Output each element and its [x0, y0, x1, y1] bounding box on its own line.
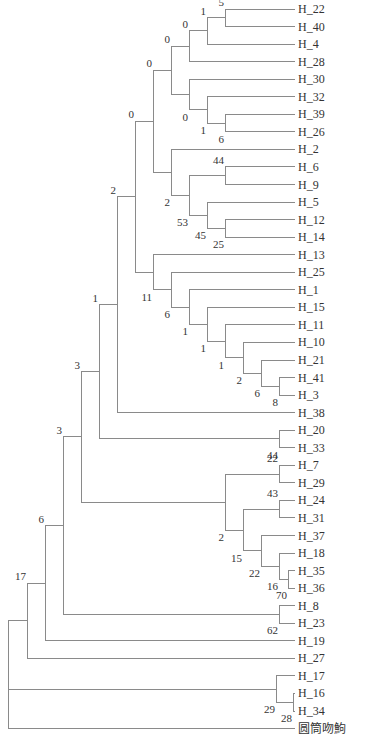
taxon-labels: H_22H_40H_4H_28H_30H_32H_39H_26H_2H_6H_9…: [298, 2, 346, 736]
bootstrap-value: 1: [93, 292, 99, 304]
bootstrap-value: 11: [141, 291, 152, 303]
bootstrap-value: 2: [219, 531, 225, 543]
bootstrap-value: 0: [183, 111, 189, 123]
taxon-label: H_14: [298, 230, 325, 244]
bootstrap-value: 17: [15, 570, 27, 582]
bootstrap-value: 2: [237, 374, 243, 386]
taxon-label: H_38: [298, 406, 325, 420]
bootstrap-value: 6: [39, 513, 45, 525]
taxon-label: H_39: [298, 107, 325, 121]
taxon-label: H_34: [298, 704, 325, 718]
taxon-label: H_32: [298, 90, 325, 104]
taxon-label: H_31: [298, 511, 325, 525]
taxon-label: H_8: [298, 599, 319, 613]
taxon-label: H_33: [298, 441, 325, 455]
taxon-label: H_27: [298, 651, 325, 665]
taxon-label: H_20: [298, 423, 325, 437]
taxon-label: H_19: [298, 634, 325, 648]
taxon-label: H_37: [298, 529, 325, 543]
taxon-label: H_25: [298, 265, 325, 279]
bootstrap-value: 5: [219, 0, 225, 8]
taxon-label: H_28: [298, 55, 325, 69]
phylogenetic-tree: 1763312000015016253444525116111268442221…: [0, 0, 365, 743]
bootstrap-value: 70: [276, 589, 288, 601]
taxon-label: H_30: [298, 72, 325, 86]
bootstrap-value: 0: [129, 108, 135, 120]
taxon-label: H_15: [298, 300, 325, 314]
bootstrap-value: 1: [183, 325, 189, 337]
taxon-label: H_7: [298, 458, 319, 472]
taxon-label: H_10: [298, 335, 325, 349]
bootstrap-value: 53: [177, 216, 189, 228]
bootstrap-value: 44: [213, 154, 225, 166]
taxon-label: H_41: [298, 371, 325, 385]
bootstrap-value: 2: [165, 196, 171, 208]
bootstrap-value: 2: [111, 184, 117, 196]
tree-canvas: 1763312000015016253444525116111268442221…: [0, 0, 365, 743]
taxon-label: H_24: [298, 493, 325, 507]
taxon-label: H_13: [298, 248, 325, 262]
taxon-label: H_9: [298, 178, 319, 192]
bootstrap-value: 25: [213, 238, 225, 250]
bootstrap-value: 1: [201, 124, 207, 136]
bootstrap-value: 0: [147, 57, 153, 69]
taxon-label: H_18: [298, 546, 325, 560]
taxon-label: H_29: [298, 476, 325, 490]
bootstrap-value: 1: [201, 342, 207, 354]
taxon-label: H_26: [298, 125, 325, 139]
bootstrap-value: 28: [281, 712, 293, 724]
taxon-label: 圆筒吻鮈: [298, 721, 346, 736]
bootstrap-value: 15: [231, 552, 243, 564]
taxon-label: H_36: [298, 581, 325, 595]
bootstrap-value: 3: [75, 359, 81, 371]
taxon-label: H_2: [298, 142, 319, 156]
bootstrap-values: 1763312000015016253444525116111268442221…: [15, 0, 293, 724]
bootstrap-value: 29: [264, 703, 276, 715]
taxon-label: H_17: [298, 669, 325, 683]
bootstrap-value: 6: [255, 387, 261, 399]
taxon-label: H_12: [298, 213, 325, 227]
taxon-label: H_23: [298, 616, 325, 630]
bootstrap-value: 3: [57, 424, 63, 436]
bootstrap-value: 62: [267, 624, 278, 636]
taxon-label: H_4: [298, 37, 319, 51]
bootstrap-value: 1: [219, 359, 225, 371]
taxon-label: H_21: [298, 353, 325, 367]
taxon-label: H_6: [298, 160, 319, 174]
taxon-label: H_35: [298, 564, 325, 578]
bootstrap-value: 0: [165, 33, 171, 45]
bootstrap-value: 22: [267, 452, 278, 464]
bootstrap-value: 6: [219, 133, 225, 145]
bootstrap-value: 43: [267, 487, 279, 499]
taxon-label: H_22: [298, 2, 325, 16]
tree-branches: [8, 9, 295, 729]
bootstrap-value: 0: [183, 18, 189, 30]
bootstrap-value: 8: [273, 396, 279, 408]
taxon-label: H_11: [298, 318, 324, 332]
taxon-label: H_16: [298, 686, 325, 700]
taxon-label: H_1: [298, 283, 319, 297]
bootstrap-value: 45: [195, 229, 207, 241]
taxon-label: H_5: [298, 195, 319, 209]
bootstrap-value: 22: [249, 567, 260, 579]
bootstrap-value: 6: [165, 308, 171, 320]
bootstrap-value: 1: [201, 5, 207, 17]
taxon-label: H_40: [298, 20, 325, 34]
taxon-label: H_3: [298, 388, 319, 402]
